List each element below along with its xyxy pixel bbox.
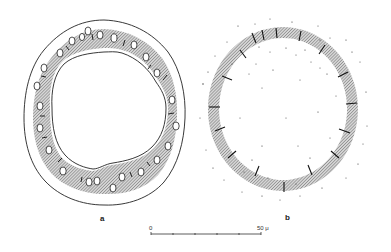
scale-bar-start-label: 0	[149, 225, 152, 231]
panel-a-label: a	[100, 214, 104, 223]
panel-a	[24, 20, 185, 205]
panel-b-scattered-dots	[200, 19, 368, 201]
panel-b	[200, 19, 368, 201]
scale-bar-end-label: 50 μ	[257, 225, 269, 231]
panel-b-label: b	[285, 213, 290, 222]
panel-b-hatched-ring	[208, 27, 358, 191]
figure-canvas	[0, 0, 391, 252]
scale-bar	[151, 232, 261, 235]
